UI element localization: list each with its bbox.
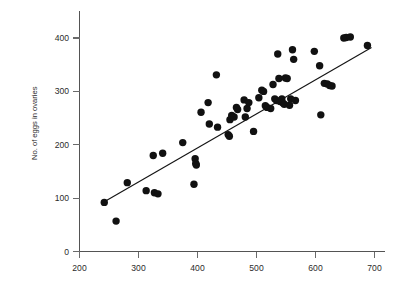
x-tick-label: 300 <box>131 263 146 273</box>
y-tick-label: 100 <box>55 193 70 203</box>
y-tick-label: 400 <box>55 33 70 43</box>
data-point <box>197 108 204 115</box>
data-point <box>213 71 220 78</box>
data-point <box>101 199 108 206</box>
data-point <box>214 123 221 130</box>
data-point <box>269 81 276 88</box>
data-point <box>154 190 161 197</box>
data-point <box>179 139 186 146</box>
plot-area <box>101 33 372 225</box>
data-point <box>190 181 197 188</box>
data-point <box>317 111 324 118</box>
data-point <box>242 113 249 120</box>
x-tick-label: 600 <box>308 263 323 273</box>
data-point <box>204 99 211 106</box>
data-point <box>112 217 119 224</box>
data-point <box>292 97 299 104</box>
data-point <box>150 152 157 159</box>
data-point <box>260 88 267 95</box>
x-axis-ticks: 200300400500600700 <box>72 252 382 274</box>
data-point <box>289 46 296 53</box>
data-point <box>328 82 335 89</box>
data-point <box>364 42 371 49</box>
x-tick-label: 700 <box>367 263 382 273</box>
scatter-plot-figure: 0100200300400 200300400500600700 No. of … <box>0 0 417 297</box>
data-point <box>283 75 290 82</box>
data-point <box>286 102 293 109</box>
x-tick-label: 200 <box>72 263 87 273</box>
data-point <box>250 128 257 135</box>
data-point <box>347 33 354 40</box>
y-tick-label: 300 <box>55 86 70 96</box>
data-point <box>274 50 281 57</box>
x-tick-label: 400 <box>190 263 205 273</box>
data-point <box>234 106 241 113</box>
data-point <box>226 133 233 140</box>
data-point <box>159 150 166 157</box>
y-tick-label: 0 <box>64 247 69 257</box>
regression-line <box>104 48 371 202</box>
data-point <box>193 161 200 168</box>
y-tick-label: 200 <box>55 140 70 150</box>
y-axis-ticks: 0100200300400 <box>55 33 80 257</box>
x-tick-label: 500 <box>249 263 264 273</box>
data-point <box>230 113 237 120</box>
data-point <box>255 94 262 101</box>
data-point <box>142 187 149 194</box>
data-point <box>245 99 252 106</box>
data-point <box>311 48 318 55</box>
data-point <box>124 179 131 186</box>
data-point <box>275 75 282 82</box>
data-point <box>267 105 274 112</box>
data-point <box>316 62 323 69</box>
data-point <box>206 120 213 127</box>
data-point <box>290 56 297 63</box>
data-points <box>101 33 372 225</box>
axes <box>79 11 385 252</box>
y-axis-label: No. of eggs in ovaries <box>30 86 39 160</box>
